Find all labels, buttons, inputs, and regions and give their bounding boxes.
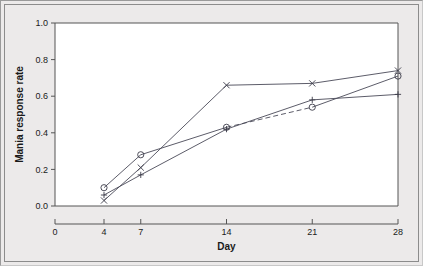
x-tick-label: 0	[52, 227, 57, 237]
y-tick-label: 0.6	[35, 91, 48, 101]
line-chart: 0.00.20.40.60.81.0047142128DayMania resp…	[5, 5, 420, 263]
figure-panel: 0.00.20.40.60.81.0047142128DayMania resp…	[0, 0, 423, 266]
x-tick-label: 21	[307, 227, 317, 237]
figure-inner-frame: 0.00.20.40.60.81.0047142128DayMania resp…	[4, 4, 419, 262]
x-axis-title: Day	[217, 241, 236, 252]
x-tick-label: 14	[221, 227, 231, 237]
y-tick-label: 0.2	[35, 165, 48, 175]
x-tick-label: 28	[393, 227, 403, 237]
y-tick-label: 0.4	[35, 128, 48, 138]
x-tick-label: 4	[101, 227, 106, 237]
x-tick-label: 7	[138, 227, 143, 237]
y-tick-label: 0.8	[35, 55, 48, 65]
y-axis-title: Mania response rate	[14, 66, 25, 163]
plot-area-background	[55, 23, 398, 206]
y-tick-label: 1.0	[35, 18, 48, 28]
y-tick-label: 0.0	[35, 201, 48, 211]
